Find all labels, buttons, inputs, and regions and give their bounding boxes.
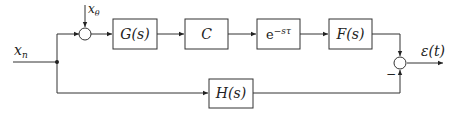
F-to-sum2-line: [372, 34, 400, 56]
minus-sign: −: [386, 67, 396, 81]
label-output: ε(t): [421, 43, 445, 59]
branch-point: [55, 60, 59, 64]
label-xn: xn: [14, 42, 28, 60]
H-to-sum2-line: [253, 70, 400, 93]
label-xtheta: xθ: [88, 2, 100, 18]
block-diagram: xn xθ G(s) C e−sτ F(s) H(s) ε(t) −: [0, 0, 456, 115]
label-H: H(s): [215, 85, 246, 101]
label-G: G(s): [120, 26, 149, 42]
summing-junction-1: [79, 28, 91, 40]
label-C: C: [201, 26, 212, 42]
label-F: F(s): [336, 26, 365, 42]
